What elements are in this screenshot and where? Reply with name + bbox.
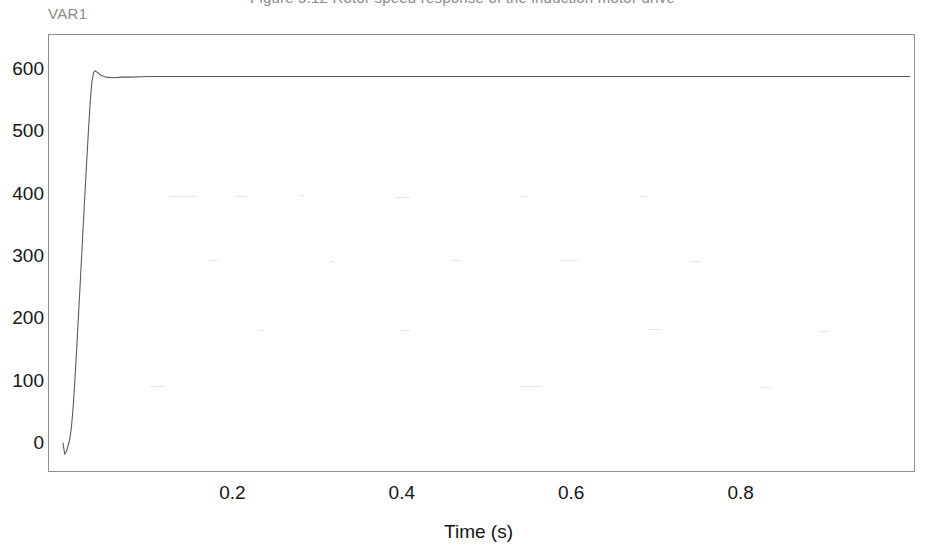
figure-page: Figure 5.12 Rotor speed response of the …: [0, 0, 925, 555]
series-line-var1: [63, 71, 910, 454]
y-axis-tick-label: 100: [0, 371, 44, 391]
cut-off-caption-text: Figure 5.12 Rotor speed response of the …: [0, 0, 925, 7]
y-axis-tick-label: 600: [0, 59, 44, 79]
y-axis-tick-label: 400: [0, 184, 44, 204]
y-axis-tick-label: 500: [0, 121, 44, 141]
y-axis-tick-label: 300: [0, 246, 44, 266]
x-axis-title: Time (s): [0, 520, 925, 544]
x-axis-tick-label: 0.6: [531, 482, 611, 504]
x-axis-title-text: Time (s): [444, 521, 513, 542]
y-axis-tick-label: 0: [0, 433, 44, 453]
y-axis-tick-labels: 0100200300400500600: [0, 0, 44, 555]
chart-plot-area: [48, 34, 915, 472]
x-axis-tick-label: 0.8: [701, 482, 781, 504]
series-legend-label: VAR1: [48, 5, 87, 23]
x-axis-tick-label: 0.4: [362, 482, 442, 504]
x-axis-tick-label: 0.2: [192, 482, 272, 504]
y-axis-tick-label: 200: [0, 308, 44, 328]
